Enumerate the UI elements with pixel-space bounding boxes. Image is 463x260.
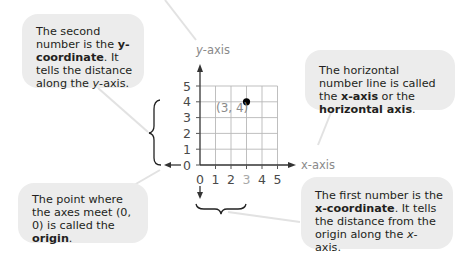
svg-text:1: 1	[183, 142, 191, 157]
y-tick-labels: 0 1 2 3 4 5	[183, 79, 191, 173]
x-axis-arrow-icon	[288, 162, 296, 168]
svg-text:4: 4	[183, 94, 191, 109]
callout-origin: The point where the axes meet (0, 0) is …	[18, 183, 148, 243]
point-label: (3, 4)	[216, 101, 248, 115]
y-axis	[196, 64, 203, 165]
x-axis	[200, 162, 296, 169]
y-axis-arrow-icon	[197, 64, 203, 72]
svg-text:4: 4	[258, 172, 266, 187]
svg-text:3: 3	[183, 110, 191, 125]
connector-line-x-coordinate	[228, 212, 300, 222]
svg-text:2: 2	[183, 126, 191, 141]
svg-text:5: 5	[274, 172, 282, 187]
svg-text:5: 5	[183, 79, 191, 94]
callout-y-coordinate: The second number is the y-coordinate. I…	[22, 14, 144, 88]
callout-x-axis: The horizontal number line is called the…	[305, 50, 455, 110]
x-axis-label: x-axis	[301, 158, 335, 172]
svg-text:1: 1	[212, 172, 220, 187]
callout-x-coordinate: The first number is the x-coordinate. It…	[301, 177, 453, 249]
svg-text:0: 0	[183, 158, 191, 173]
svg-text:0: 0	[196, 172, 204, 187]
origin-arrow-icon	[164, 162, 171, 168]
x-coordinate-arrow-icon	[197, 192, 203, 199]
svg-text:2: 2	[227, 172, 235, 187]
svg-text:3: 3	[243, 172, 251, 187]
y-axis-label: y-axis	[195, 43, 230, 57]
connector-line-y-coordinate	[98, 88, 148, 132]
x-tick-labels: 0 1 2 3 4 5	[196, 172, 281, 187]
grid	[200, 86, 278, 165]
y-brace-icon	[149, 100, 161, 165]
connector-line-y-axis-top	[165, 0, 196, 40]
